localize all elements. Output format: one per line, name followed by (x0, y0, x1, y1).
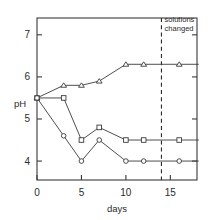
x-tick-label: 10 (120, 187, 132, 198)
data-point-circle (61, 134, 66, 139)
data-point-circle (124, 159, 129, 164)
data-point-circle (141, 159, 146, 164)
x-axis-label: days (107, 203, 127, 214)
annotation-text-line1: solutions (164, 15, 194, 24)
data-point-square (79, 138, 84, 143)
x-tick-label: 5 (79, 187, 85, 198)
data-point-square (124, 138, 129, 143)
data-point-circle (97, 138, 102, 143)
data-point-circle (79, 159, 84, 164)
y-axis-label: pH (14, 98, 26, 109)
data-point-circle (177, 159, 182, 164)
x-tick-label: 0 (34, 187, 40, 198)
y-tick-label: 5 (24, 113, 30, 124)
y-tick-label: 4 (24, 156, 30, 167)
annotation-text-line2: changed (164, 24, 193, 33)
ph-vs-days-chart: 4567 051015 pH days solutions changed (0, 0, 214, 220)
y-tick-label: 7 (24, 29, 30, 40)
data-point-square (177, 138, 182, 143)
chart-plot-area: 4567 051015 pH days solutions changed (0, 0, 214, 220)
data-point-circle (35, 96, 40, 101)
x-axis-tick-labels: 051015 (34, 187, 176, 198)
data-point-square (97, 125, 102, 130)
x-tick-label: 15 (165, 187, 177, 198)
data-point-square (141, 138, 146, 143)
y-tick-label: 6 (24, 71, 30, 82)
data-point-square (61, 96, 66, 101)
